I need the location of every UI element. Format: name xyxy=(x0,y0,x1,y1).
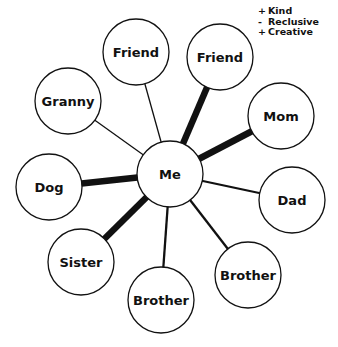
node-sister-label: Sister xyxy=(60,255,104,270)
node-brother2-label: Brother xyxy=(220,268,277,283)
trait-text: Reclusive xyxy=(268,16,319,27)
relationship-diagram: FriendFriendGrannyMomDogDadSisterBrother… xyxy=(0,0,338,347)
node-sister[interactable]: Sister xyxy=(48,229,114,295)
node-mom[interactable]: Mom xyxy=(248,83,314,149)
node-dad-label: Dad xyxy=(278,193,307,208)
trait-sign: - xyxy=(258,16,262,27)
friend-traits-annotation: +Kind-Reclusive+Creative xyxy=(258,5,319,37)
node-brother1[interactable]: Brother xyxy=(128,267,194,333)
node-brother2[interactable]: Brother xyxy=(215,242,281,308)
trait-text: Kind xyxy=(268,5,292,16)
node-me[interactable]: Me xyxy=(137,141,203,207)
node-friend2[interactable]: Friend xyxy=(187,24,253,90)
nodes: FriendFriendGrannyMomDogDadSisterBrother… xyxy=(16,19,325,333)
node-dad[interactable]: Dad xyxy=(259,167,325,233)
node-granny-label: Granny xyxy=(42,94,95,109)
node-friend2-label: Friend xyxy=(197,50,243,65)
node-mom-label: Mom xyxy=(263,109,298,124)
trait-sign: + xyxy=(258,5,266,16)
node-me-label: Me xyxy=(159,167,181,182)
node-dog-label: Dog xyxy=(34,180,63,195)
node-friend1[interactable]: Friend xyxy=(103,19,169,85)
trait-text: Creative xyxy=(268,26,313,37)
node-dog[interactable]: Dog xyxy=(16,154,82,220)
node-granny[interactable]: Granny xyxy=(35,68,101,134)
node-friend1-label: Friend xyxy=(113,45,159,60)
node-brother1-label: Brother xyxy=(133,293,190,308)
trait-sign: + xyxy=(258,26,266,37)
